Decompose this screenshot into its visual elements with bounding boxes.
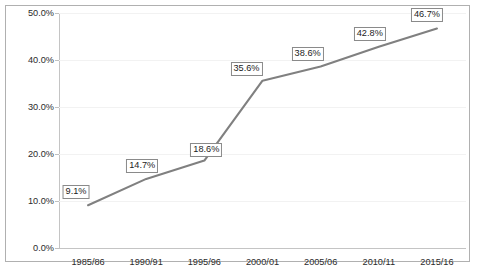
y-axis-label-100: 10.0% bbox=[28, 196, 54, 206]
x-axis-label-1985-86: 1985/86 bbox=[71, 257, 104, 267]
x-axis-label-2010-11: 2010/11 bbox=[363, 257, 396, 267]
x-axis-label-2005-06: 2005/06 bbox=[304, 257, 337, 267]
plot-area: 0.0%10.0%20.0%30.0%40.0%50.0% 1985/86199… bbox=[59, 13, 466, 248]
data-label-2010-11: 42.8% bbox=[354, 27, 386, 41]
data-label-1985-86: 9.1% bbox=[63, 185, 90, 199]
chart-frame: 0.0%10.0%20.0%30.0%40.0%50.0% 1985/86199… bbox=[5, 5, 470, 262]
y-axis-label-00: 0.0% bbox=[33, 243, 54, 253]
x-axis-label-1995-96: 1995/96 bbox=[188, 257, 221, 267]
y-axis-label-400: 40.0% bbox=[28, 55, 54, 65]
data-label-1995-96: 18.6% bbox=[190, 143, 222, 157]
data-label-2005-06: 38.6% bbox=[292, 47, 324, 61]
y-tickmark bbox=[55, 248, 59, 249]
line-series bbox=[59, 13, 466, 248]
clipped-title-text bbox=[126, 0, 376, 7]
x-axis-label-2015-16: 2015/16 bbox=[420, 257, 453, 267]
data-label-2000-01: 35.6% bbox=[230, 62, 262, 76]
x-axis-label-2000-01: 2000/01 bbox=[246, 257, 279, 267]
y-axis-label-500: 50.0% bbox=[28, 8, 54, 18]
data-label-2015-16: 46.7% bbox=[411, 8, 443, 22]
y-axis-label-300: 30.0% bbox=[28, 102, 54, 112]
series-line bbox=[88, 29, 437, 206]
y-axis-label-200: 20.0% bbox=[28, 149, 54, 159]
data-label-1990-91: 14.7% bbox=[126, 159, 158, 173]
gridline-00 bbox=[59, 248, 466, 249]
x-axis-label-1990-91: 1990/91 bbox=[130, 257, 163, 267]
